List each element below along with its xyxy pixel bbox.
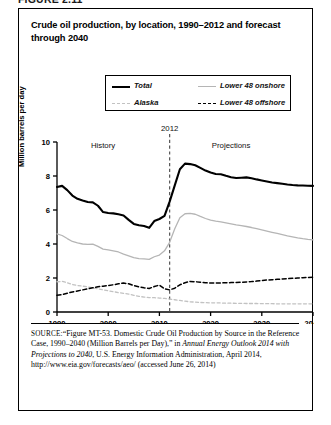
legend-label-alaska: Alaska [134,98,159,107]
series-line-alaska [57,281,313,303]
legend-item-alaska: Alaska [112,98,198,107]
y-tick-label: 6 [46,206,50,215]
annotation-projections: Projections [212,141,251,150]
series-line-lower-48-onshore [57,213,313,259]
y-tick-label: 0 [46,308,50,317]
legend-item-lower-48-offshore: Lower 48 offshore [198,98,298,107]
y-tick-label: 10 [42,138,50,147]
source-divider [31,323,299,324]
legend-label-total: Total [134,81,152,90]
annotation-history: History [91,141,115,150]
y-tick-label: 4 [46,240,51,249]
chart-svg: 02468101990200020102020203020402012Histo… [19,119,314,324]
legend-item-total: Total [112,81,198,90]
source-prefix: SOURCE: [31,330,63,338]
figure-title: Crude oil production, by location, 1990–… [31,19,299,44]
y-tick-label: 8 [46,172,50,181]
legend-line-offshore-icon [198,99,216,107]
legend-label-lower-48-onshore: Lower 48 onshore [220,81,285,90]
chart-legend: Total Lower 48 onshore Alaska Lower 48 o… [105,75,291,111]
y-tick-label: 2 [46,274,50,283]
chart-plot: 02468101990200020102020203020402012Histo… [19,119,314,324]
figure-frame: Crude oil production, by location, 1990–… [18,8,313,411]
divider-label-2012: 2012 [161,124,178,133]
x-tick-label: 2040 [305,319,314,325]
series-line-total [57,164,313,228]
legend-line-total-icon [112,82,130,90]
legend-item-lower-48-onshore: Lower 48 onshore [198,81,298,90]
legend-line-alaska-icon [112,99,130,107]
series-line-lower-48-offshore [57,277,313,295]
figure-number-label: FIGURE 2.11 [18,0,83,5]
legend-line-onshore-icon [198,82,216,90]
chart-area: Million barrels per day 0246810199020002… [19,119,314,324]
legend-label-lower-48-offshore: Lower 48 offshore [220,98,285,107]
source-note: SOURCE:“Figure MT-53. Domestic Crude Oil… [31,329,301,371]
figure-page: FIGURE 2.11 Crude oil production, by loc… [0,0,331,425]
